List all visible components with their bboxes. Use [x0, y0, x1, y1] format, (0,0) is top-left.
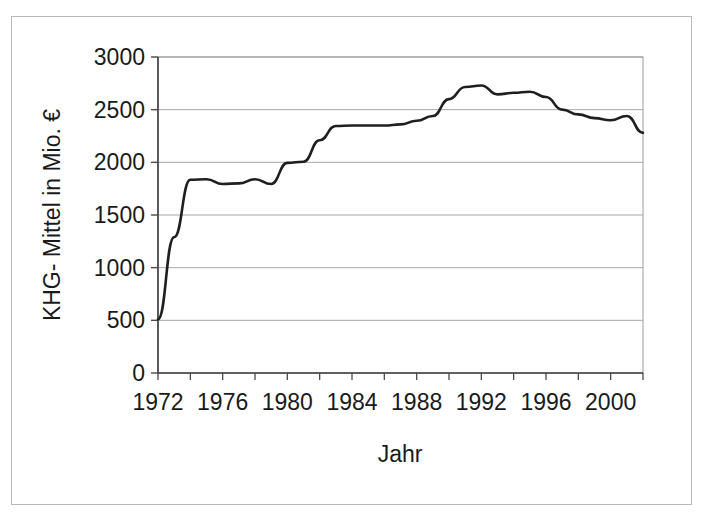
y-tick-label: 2000 [94, 149, 145, 175]
x-tick-label: 1992 [456, 389, 507, 415]
y-gridlines [158, 57, 643, 320]
y-axis-ticks [151, 57, 158, 373]
x-tick-label: 1972 [132, 389, 183, 415]
x-tick-label: 1996 [520, 389, 571, 415]
x-tick-label: 1976 [197, 389, 248, 415]
y-tick-label: 1000 [94, 255, 145, 281]
x-tick-label: 1988 [391, 389, 442, 415]
y-tick-label: 0 [132, 360, 145, 386]
y-tick-label: 500 [107, 307, 145, 333]
y-tick-label: 2500 [94, 97, 145, 123]
x-axis-ticks [158, 373, 643, 380]
y-tick-label: 1500 [94, 202, 145, 228]
chart-figure: 050010001500200025003000 197219761980198… [0, 0, 707, 521]
x-tick-label: 2000 [585, 389, 636, 415]
x-axis-tick-labels: 19721976198019841988199219962000 [132, 389, 636, 415]
y-axis-tick-labels: 050010001500200025003000 [94, 44, 145, 386]
line-chart: 050010001500200025003000 197219761980198… [0, 0, 707, 521]
x-tick-label: 1980 [262, 389, 313, 415]
x-axis-title: Jahr [378, 441, 423, 467]
data-series-line [158, 85, 643, 319]
y-tick-label: 3000 [94, 44, 145, 70]
y-axis-title: KHG- Mittel in Mio. € [39, 109, 65, 321]
x-tick-label: 1984 [326, 389, 377, 415]
